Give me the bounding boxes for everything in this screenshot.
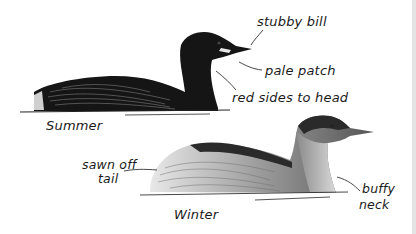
annotation-sawn-off-line1: sawn off xyxy=(82,158,136,171)
grebe-illustration xyxy=(0,0,416,234)
winter-grebe xyxy=(140,115,374,200)
annotation-buffy-neck-line1: buffy xyxy=(362,182,395,195)
summer-grebe xyxy=(20,32,252,115)
annotation-buffy-neck-line2: neck xyxy=(359,198,390,211)
annotation-red-sides-to-head: red sides to head xyxy=(232,91,348,104)
edge-strip xyxy=(412,0,416,234)
caption-summer: Summer xyxy=(46,119,102,132)
annotation-stubby-bill: stubby bill xyxy=(257,15,327,28)
annotation-sawn-off-line2: tail xyxy=(98,172,118,185)
annotation-pale-patch: pale patch xyxy=(265,64,336,77)
illustration-canvas: stubby bill pale patch red sides to head… xyxy=(0,0,416,234)
caption-winter: Winter xyxy=(174,208,218,221)
